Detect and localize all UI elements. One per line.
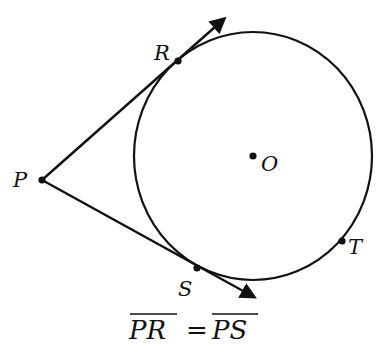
caption-right: PS <box>211 315 247 345</box>
label-s: S <box>178 277 192 301</box>
label-r: R <box>153 41 170 65</box>
caption-equation: PR = PS <box>128 314 258 345</box>
tangent-ray-ps <box>42 180 254 297</box>
point-t <box>338 237 345 244</box>
label-p: P <box>12 168 28 192</box>
label-t: T <box>348 235 364 259</box>
point-r <box>174 57 181 64</box>
point-o <box>249 152 256 159</box>
point-s <box>193 264 200 271</box>
tangent-diagram: P R S T O PR = PS <box>0 0 379 353</box>
caption-left: PR <box>128 315 166 345</box>
point-p <box>38 176 45 183</box>
label-o: O <box>261 152 278 176</box>
caption-equals: = <box>186 315 208 345</box>
